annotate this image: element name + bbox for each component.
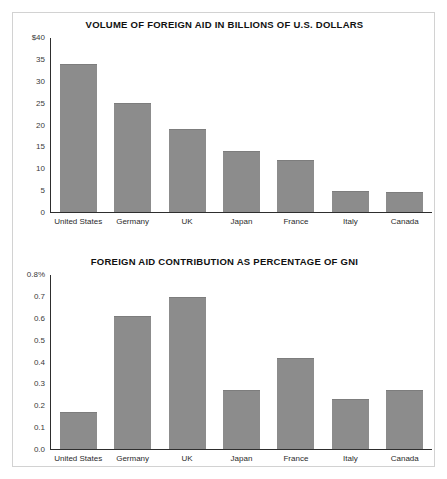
x-axis-top: United StatesGermanyUKJapanFranceItalyCa… [51, 213, 432, 226]
x-axis-tick-label: UK [160, 217, 214, 226]
bar [169, 297, 206, 449]
bar-slot [214, 38, 268, 212]
y-axis-tick-label: 0.5 [34, 337, 45, 345]
x-axis-tick-label: United States [51, 454, 105, 463]
bar-slot [378, 275, 432, 449]
plot-area-top: $4035302520151050 United StatesGermanyUK… [13, 38, 436, 213]
y-axis-tick-label: 0.0 [34, 446, 45, 454]
x-axis-tick-label: Italy [323, 217, 377, 226]
y-axis-tick-label: 0 [41, 209, 45, 217]
bar-slot [378, 38, 432, 212]
bar-slot [323, 38, 377, 212]
bars-bottom [51, 275, 432, 449]
chart-foreign-aid-percentage-gni: FOREIGN AID CONTRIBUTION AS PERCENTAGE O… [13, 256, 436, 468]
chart-title-top: VOLUME OF FOREIGN AID IN BILLIONS OF U.S… [13, 19, 436, 31]
y-axis-tick-label: 0.8% [27, 271, 45, 279]
y-axis-tick-label: 0.6 [34, 315, 45, 323]
y-axis-tick-label: 5 [41, 187, 45, 195]
bar-slot [51, 275, 105, 449]
y-axis-tick-label: 0.4 [34, 359, 45, 367]
y-axis-tick-label: 15 [36, 143, 45, 151]
y-axis-tick-label: 30 [36, 78, 45, 86]
y-axis-tick-label: 10 [36, 165, 45, 173]
x-axis-tick-label: France [269, 454, 323, 463]
x-axis-bottom: United StatesGermanyUKJapanFranceItalyCa… [51, 450, 432, 463]
x-axis-tick-label: UK [160, 454, 214, 463]
bar-slot [323, 275, 377, 449]
y-axis-tick-label: 0.3 [34, 380, 45, 388]
chart-title-bottom: FOREIGN AID CONTRIBUTION AS PERCENTAGE O… [13, 256, 436, 268]
bar-slot [214, 275, 268, 449]
y-axis-tick-label: 0.1 [34, 424, 45, 432]
plot-area-bottom: 0.8%0.70.60.50.40.30.20.10.0 United Stat… [13, 275, 436, 450]
y-axis-tick-label: 35 [36, 56, 45, 64]
bar [223, 390, 260, 449]
x-axis-tick-label: Italy [323, 454, 377, 463]
bar [277, 160, 314, 212]
x-axis-tick-label: Germany [105, 217, 159, 226]
y-axis-tick-label: 20 [36, 122, 45, 130]
x-axis-tick-label: Canada [378, 217, 432, 226]
y-axis-top: $4035302520151050 [13, 38, 49, 213]
bar [223, 151, 260, 212]
bar [60, 64, 97, 212]
bar-slot [269, 38, 323, 212]
chart-page-frame: VOLUME OF FOREIGN AID IN BILLIONS OF U.S… [12, 12, 435, 467]
bar [332, 191, 369, 212]
bar-slot [269, 275, 323, 449]
x-axis-tick-label: Canada [378, 454, 432, 463]
bar-slot [160, 275, 214, 449]
bar [114, 316, 151, 449]
bar-slot [160, 38, 214, 212]
y-axis-tick-label: 0.2 [34, 402, 45, 410]
x-axis-tick-label: Japan [214, 217, 268, 226]
bars-top [51, 38, 432, 212]
bar [386, 390, 423, 449]
x-axis-tick-label: Japan [214, 454, 268, 463]
bar [386, 192, 423, 212]
y-axis-tick-label: 25 [36, 100, 45, 108]
chart-volume-of-foreign-aid: VOLUME OF FOREIGN AID IN BILLIONS OF U.S… [13, 19, 436, 247]
bar [60, 412, 97, 449]
y-axis-tick-label: $40 [32, 34, 45, 42]
bar-slot [51, 38, 105, 212]
bar [277, 358, 314, 449]
x-axis-tick-label: France [269, 217, 323, 226]
bar-slot [105, 38, 159, 212]
x-axis-tick-label: United States [51, 217, 105, 226]
bar [332, 399, 369, 449]
y-axis-bottom: 0.8%0.70.60.50.40.30.20.10.0 [13, 275, 49, 450]
bar-slot [105, 275, 159, 449]
bar [114, 103, 151, 212]
y-axis-tick-label: 0.7 [34, 293, 45, 301]
x-axis-tick-label: Germany [105, 454, 159, 463]
bar [169, 129, 206, 212]
